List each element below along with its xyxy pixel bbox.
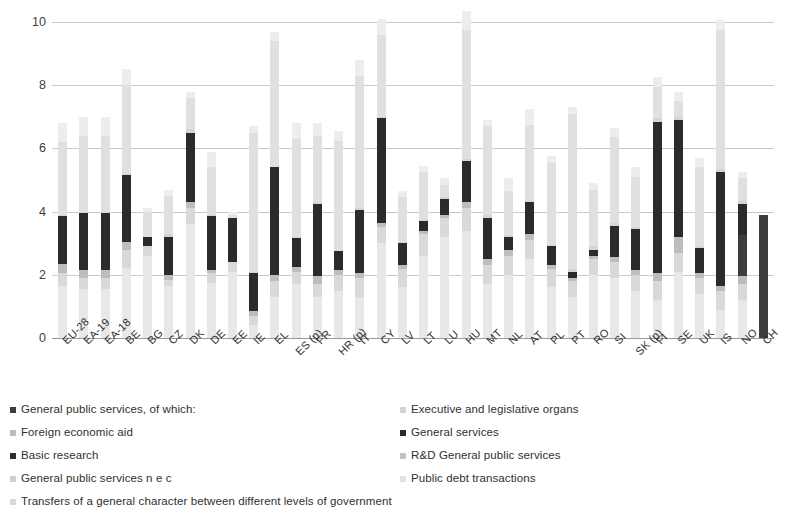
bar-segment [270, 41, 279, 167]
bar-segment [738, 178, 747, 200]
bar-stack[interactable] [419, 166, 428, 338]
bar-stack[interactable] [58, 123, 67, 338]
bar-segment [419, 221, 428, 230]
bar-segment [547, 163, 556, 245]
y-tick-label-6: 6 [10, 142, 46, 155]
legend-item-transfers: Transfers of a general character between… [10, 490, 392, 513]
bar-segment [716, 291, 725, 310]
bar-segment [695, 158, 704, 167]
bar-group [525, 22, 534, 338]
bar-stack[interactable] [79, 117, 88, 338]
bar-stack[interactable] [207, 152, 216, 338]
bar-group [355, 22, 364, 338]
legend-item-label: Transfers of a general character between… [21, 496, 392, 508]
bar-segment [270, 32, 279, 41]
bar-segment [334, 251, 343, 270]
bar-stack[interactable] [313, 123, 322, 338]
bar-stack[interactable] [186, 92, 195, 338]
bar-segment [377, 227, 386, 243]
bar-segment [313, 204, 322, 277]
bar-group [440, 22, 449, 338]
bar-stack[interactable] [504, 178, 513, 338]
bar-segment [525, 125, 534, 201]
bar-segment [292, 123, 301, 139]
bar-stack[interactable] [355, 60, 364, 338]
bar-segment [58, 142, 67, 215]
bar-stack[interactable] [610, 128, 619, 338]
bar-stack[interactable] [589, 183, 598, 338]
bar-stack[interactable] [716, 20, 725, 338]
bar-group [79, 22, 88, 338]
bar-segment [228, 218, 237, 262]
bar-stack[interactable] [270, 32, 279, 338]
bar-stack[interactable] [377, 19, 386, 338]
legend-item-label: General public services n e c [21, 473, 172, 485]
bar-segment [122, 85, 131, 173]
bar-segment [122, 242, 131, 250]
bar-segment [164, 196, 173, 234]
legend-swatch-icon [10, 430, 16, 436]
bar-segment [313, 284, 322, 297]
bar-segment [122, 250, 131, 269]
bar-stack[interactable] [483, 120, 492, 338]
bar-stack[interactable] [122, 69, 131, 338]
bar-segment [101, 213, 110, 270]
legend-item-label: Public debt transactions [411, 473, 536, 485]
bar-stack[interactable] [292, 123, 301, 338]
bar-segment [504, 178, 513, 191]
bar-segment [631, 291, 640, 338]
bar-stack[interactable] [249, 126, 258, 338]
bar-segment [525, 259, 534, 338]
bar-segment [207, 152, 216, 168]
bar-stack[interactable] [164, 190, 173, 338]
bar-segment [440, 185, 449, 198]
bar-stack[interactable] [462, 11, 471, 338]
bar-segment [674, 237, 683, 253]
bar-segment [58, 123, 67, 142]
bar-segment [79, 117, 88, 136]
bar-group [653, 22, 662, 338]
gridline-10 [52, 22, 774, 23]
bar-stack[interactable] [228, 212, 237, 338]
bar-group [674, 22, 683, 338]
legend-column-left: General public services, of which:Foreig… [10, 398, 398, 490]
bar-segment [504, 275, 513, 338]
bar-group [398, 22, 407, 338]
bar-stack[interactable] [631, 167, 640, 338]
bar-stack[interactable] [653, 77, 662, 338]
bar-segment [58, 216, 67, 263]
bar-segment [207, 167, 216, 214]
bar-stack[interactable] [143, 208, 152, 338]
bar-stack[interactable] [334, 131, 343, 338]
bar-segment [334, 141, 343, 252]
bar-group [228, 22, 237, 338]
bar-segment [674, 101, 683, 117]
bar-segment [377, 243, 386, 338]
bar-segment [738, 284, 747, 300]
bar-segment [292, 284, 301, 338]
bar-stack[interactable] [568, 107, 577, 338]
bar-group [270, 22, 279, 338]
bar-segment [122, 175, 131, 241]
bar-segment [525, 202, 534, 234]
bar-segment [589, 259, 598, 275]
bar-stack[interactable] [525, 109, 534, 338]
bar-stack[interactable] [440, 178, 449, 338]
bar-segment [79, 136, 88, 212]
bar-stack[interactable] [759, 215, 768, 338]
legend-general-services: General services [400, 421, 780, 444]
bar-stack[interactable] [738, 172, 747, 338]
bar-stack[interactable] [398, 191, 407, 338]
y-tick-label-8: 8 [10, 79, 46, 92]
bar-segment [122, 69, 131, 85]
bar-stack[interactable] [674, 92, 683, 338]
bar-stack[interactable] [695, 158, 704, 338]
bar-segment [398, 197, 407, 241]
bar-stack[interactable] [547, 156, 556, 338]
bar-segment [377, 118, 386, 222]
legend-public-debt-transactions: Public debt transactions [400, 467, 780, 490]
bar-segment [292, 139, 301, 237]
bar-segment [589, 190, 598, 247]
bar-segment [270, 167, 279, 274]
bar-stack[interactable] [101, 117, 110, 338]
